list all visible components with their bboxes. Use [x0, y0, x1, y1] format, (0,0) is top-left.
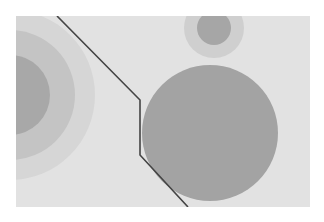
large-circle: [142, 65, 278, 201]
abstract-figure: [0, 0, 324, 222]
ring-1: [197, 11, 231, 45]
